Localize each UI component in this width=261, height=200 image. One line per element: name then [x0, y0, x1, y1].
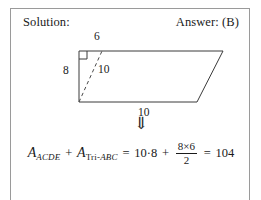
equation-row: AACDE + ATri-ABC = 10·8 + 8×6 2 = 104 — [11, 141, 251, 167]
equals-operator-1: = — [121, 146, 131, 160]
product-term: 10·8 — [134, 146, 157, 160]
trapezoid-outline — [79, 51, 223, 102]
label-top-6: 6 — [94, 31, 100, 43]
area-equation: AACDE + ATri-ABC = 10·8 + 8×6 2 = 104 — [28, 141, 235, 167]
fraction-term: 8×6 2 — [174, 141, 199, 167]
term2-subscript-prefix: Tri- — [86, 152, 100, 162]
label-left-8: 8 — [63, 65, 69, 77]
right-angle-marker — [79, 51, 87, 59]
term1-variable: A — [28, 145, 37, 160]
term-tri-abc: ATri-ABC — [77, 146, 118, 162]
fraction-denominator: 2 — [176, 154, 197, 167]
result-value: 104 — [216, 146, 235, 160]
fraction-numerator: 8×6 — [176, 141, 197, 154]
label-diagonal-10: 10 — [98, 64, 110, 76]
term-acde: AACDE — [28, 146, 61, 162]
equals-operator-2: = — [202, 146, 212, 160]
term2-variable: A — [77, 145, 86, 160]
term2-subscript-italic: ABC — [100, 152, 118, 162]
double-down-arrow-icon: ⇓ — [134, 114, 148, 133]
plus-operator-1: + — [64, 146, 74, 160]
term1-subscript: ACDE — [36, 152, 60, 162]
solution-card: Solution: Answer: (B) 6 8 10 10 ⇓ AACDE … — [10, 8, 250, 200]
down-arrow-row: ⇓ — [11, 115, 251, 132]
plus-operator-2: + — [160, 146, 170, 160]
